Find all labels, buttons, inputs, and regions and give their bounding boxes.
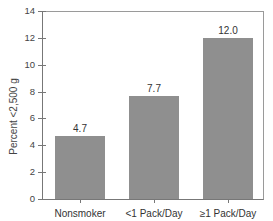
x-tick-label: ≥1 Pack/Day bbox=[188, 208, 268, 219]
y-tick-label: 4 bbox=[0, 140, 35, 150]
x-tick-label: <1 Pack/Day bbox=[114, 208, 194, 219]
bar-value-label: 4.7 bbox=[55, 123, 105, 134]
y-tick-label: 6 bbox=[0, 113, 35, 123]
bar bbox=[129, 96, 179, 199]
bar bbox=[203, 38, 253, 199]
y-tick bbox=[38, 38, 46, 39]
y-tick-label: 8 bbox=[0, 87, 35, 97]
y-tick bbox=[38, 199, 46, 200]
y-tick bbox=[38, 92, 46, 93]
y-tick-label: 14 bbox=[0, 6, 35, 16]
x-tick bbox=[80, 199, 81, 203]
bar bbox=[55, 136, 105, 199]
y-tick-label: 10 bbox=[0, 60, 35, 70]
y-tick bbox=[38, 172, 46, 173]
y-tick-label: 0 bbox=[0, 194, 35, 204]
y-tick bbox=[38, 65, 46, 66]
y-tick bbox=[38, 145, 46, 146]
bar-value-label: 7.7 bbox=[129, 83, 179, 94]
x-tick bbox=[228, 199, 229, 203]
y-tick-label: 2 bbox=[0, 167, 35, 177]
x-tick bbox=[154, 199, 155, 203]
x-tick-label: Nonsmoker bbox=[40, 208, 120, 219]
y-tick bbox=[38, 118, 46, 119]
y-tick-label: 12 bbox=[0, 33, 35, 43]
bar-value-label: 12.0 bbox=[203, 25, 253, 36]
y-tick bbox=[38, 11, 46, 12]
